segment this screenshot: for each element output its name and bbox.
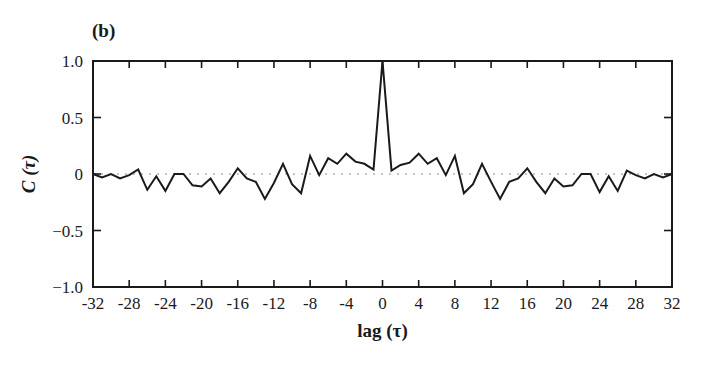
y-tick-label: 1.0: [62, 52, 83, 71]
y-tick-label: 0: [75, 165, 84, 184]
x-tick-label: 8: [451, 294, 460, 313]
x-tick-label: 24: [591, 294, 609, 313]
x-axis: -32-28-24-20-16-12-8-4048121620242832: [82, 61, 681, 313]
y-axis-title: C (τ): [18, 155, 40, 194]
x-tick-label: -20: [190, 294, 213, 313]
x-tick-label: -16: [226, 294, 249, 313]
x-tick-label: -32: [82, 294, 105, 313]
data-series: [93, 61, 672, 199]
x-tick-label: -24: [154, 294, 177, 313]
x-tick-label: -4: [339, 294, 354, 313]
y-tick-label: −1.0: [52, 278, 83, 297]
series-line: [93, 61, 672, 199]
x-tick-label: 28: [627, 294, 644, 313]
x-tick-label: 16: [519, 294, 536, 313]
x-tick-label: 32: [664, 294, 681, 313]
y-tick-label: −0.5: [52, 222, 83, 241]
x-tick-label: -28: [118, 294, 141, 313]
chart: -32-28-24-20-16-12-8-4048121620242832 1.…: [0, 0, 713, 392]
x-tick-label: 0: [378, 294, 387, 313]
x-tick-label: -8: [303, 294, 317, 313]
x-tick-label: -12: [263, 294, 286, 313]
y-tick-label: 0.5: [62, 109, 83, 128]
x-tick-label: 4: [414, 294, 423, 313]
x-tick-label: 12: [483, 294, 500, 313]
x-tick-label: 20: [555, 294, 572, 313]
y-axis: 1.00.50−0.5−1.0: [52, 52, 672, 297]
x-axis-title: lag (τ): [357, 320, 407, 342]
